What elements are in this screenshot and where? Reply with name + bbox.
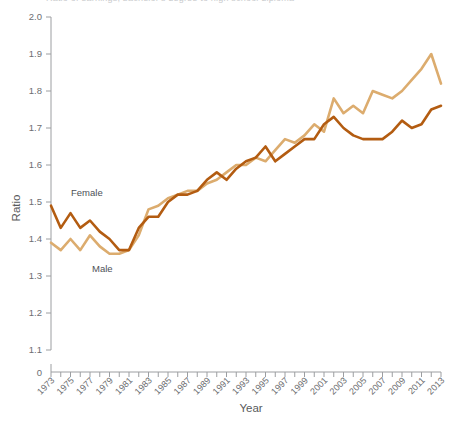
x-tick-label: 1993 [230, 375, 251, 396]
y-axis-group: 01.11.21.31.41.51.61.71.81.92.0 Ratio [10, 11, 51, 378]
x-tick-label: 2003 [328, 375, 349, 396]
y-tick-label: 1.1 [29, 344, 42, 355]
x-tick-label: 2013 [425, 375, 446, 396]
x-tick-label: 1983 [133, 375, 154, 396]
x-tick-label: 1995 [250, 375, 271, 396]
x-tick-label: 2009 [386, 375, 407, 396]
y-tick-label: 1.4 [29, 233, 42, 244]
y-tick-label: 1.6 [29, 159, 42, 170]
x-tick-label: 2011 [406, 375, 427, 396]
x-axis-ticks [51, 372, 441, 377]
male-series-label: Male [92, 263, 113, 274]
y-tick-label: 1.9 [29, 48, 42, 59]
y-tick-label: 1.3 [29, 270, 42, 281]
series-annotations: Female Male [71, 187, 113, 274]
x-tick-label: 1991 [211, 375, 232, 396]
x-tick-label: 1985 [152, 375, 173, 396]
x-tick-label: 1979 [94, 375, 115, 396]
y-tick-label: 1.2 [29, 307, 42, 318]
female-series-line [51, 106, 441, 250]
x-tick-label: 2001 [308, 375, 329, 396]
y-axis-title: Ratio [10, 195, 22, 222]
y-tick-label: 0 [37, 367, 42, 378]
y-axis-tick-labels: 01.11.21.31.41.51.61.71.81.92.0 [29, 11, 42, 378]
male-series-line [51, 54, 441, 254]
x-tick-label: 1997 [269, 375, 290, 396]
y-tick-label: 1.8 [29, 85, 42, 96]
y-tick-label: 1.5 [29, 196, 42, 207]
female-series-label: Female [71, 187, 103, 198]
y-tick-label: 1.7 [29, 122, 42, 133]
x-tick-label: 1989 [191, 375, 212, 396]
chart-container: Ratio of earnings, bachelor's degree to … [0, 0, 472, 422]
x-tick-label: 1977 [74, 375, 95, 396]
x-tick-label: 1981 [113, 375, 134, 396]
x-tick-label: 1973 [35, 375, 56, 396]
y-tick-label: 2.0 [29, 11, 42, 22]
x-tick-label: 1975 [55, 375, 76, 396]
x-tick-label: 2007 [367, 375, 388, 396]
line-chart-plot: 01.11.21.31.41.51.61.71.81.92.0 Ratio 19… [0, 0, 472, 422]
x-tick-label: 1987 [172, 375, 193, 396]
x-axis-group: 1973197519771979198119831985198719891991… [35, 372, 446, 414]
x-axis-title: Year [239, 402, 262, 414]
series-group [51, 54, 441, 254]
x-tick-label: 1999 [289, 375, 310, 396]
x-tick-label: 2005 [347, 375, 368, 396]
x-axis-tick-labels: 1973197519771979198119831985198719891991… [35, 375, 446, 396]
y-axis-ticks [46, 17, 51, 350]
